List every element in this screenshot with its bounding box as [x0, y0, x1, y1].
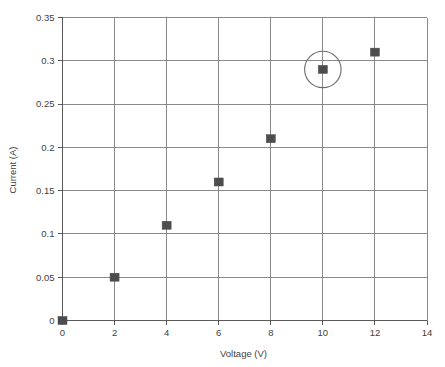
data-point-marker	[58, 317, 67, 325]
y-axis-title: Current (A)	[7, 147, 18, 194]
y-tick-label: 0.2	[41, 142, 54, 153]
x-tick-label: 4	[164, 327, 169, 338]
data-point-marker	[370, 48, 379, 56]
x-tick-label: 6	[216, 327, 221, 338]
x-tick-label: 0	[60, 327, 65, 338]
y-tick-label: 0.1	[41, 228, 54, 239]
x-tick-label: 10	[318, 327, 329, 338]
data-point-marker	[162, 221, 171, 229]
y-tick-label: 0.15	[36, 185, 55, 196]
data-point-marker	[266, 135, 275, 143]
data-point-marker	[110, 273, 119, 281]
chart-container: 00.050.10.150.20.250.30.3502468101214 Vo…	[0, 0, 445, 367]
scatter-chart: 00.050.10.150.20.250.30.3502468101214 Vo…	[0, 0, 445, 367]
y-tick-label: 0	[49, 315, 54, 326]
y-tick-label: 0.05	[36, 272, 55, 283]
x-tick-label: 14	[422, 327, 433, 338]
y-tick-label: 0.35	[36, 12, 55, 23]
y-tick-label: 0.25	[36, 98, 55, 109]
y-tick-label: 0.3	[41, 55, 54, 66]
x-tick-label: 12	[370, 327, 381, 338]
x-tick-label: 2	[112, 327, 117, 338]
x-axis-title: Voltage (V)	[220, 348, 267, 359]
x-tick-label: 8	[268, 327, 273, 338]
data-point-marker	[214, 178, 223, 186]
data-point-marker	[318, 65, 327, 73]
